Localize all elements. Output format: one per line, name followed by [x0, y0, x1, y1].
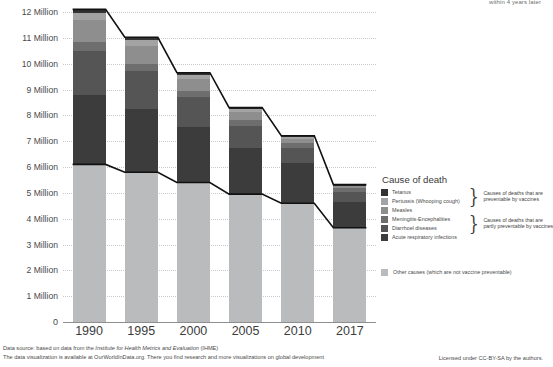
- legend-item-6[interactable]: Acute respiratory infections: [381, 233, 547, 241]
- y-tick-label: 6 Million: [26, 162, 58, 172]
- legend-swatch: [381, 198, 388, 205]
- legend-item-3[interactable]: Measles: [381, 206, 547, 214]
- top-clipped-caption: within 4 years later: [489, 0, 541, 6]
- outline-overlay: [63, 12, 376, 322]
- y-tick-label: 5 Million: [26, 188, 58, 198]
- brace-partly-line1: Causes of deaths that are: [483, 217, 542, 223]
- legend-swatch: [381, 189, 388, 196]
- y-tick-label: 11 Million: [22, 33, 58, 43]
- footer-visualization-line: The data visualization is available at O…: [3, 354, 403, 361]
- brace-preventable: } Causes of deaths that are preventable …: [467, 188, 543, 205]
- legend-item-other-causes: Other causes (which are not vaccine prev…: [381, 269, 512, 276]
- gridline: [63, 322, 376, 323]
- footer: Data source: based on data from the Inst…: [3, 345, 403, 363]
- brace-icon: }: [469, 188, 479, 205]
- legend-label-other-causes: Other causes (which are not vaccine prev…: [393, 269, 512, 276]
- y-tick-label: 8 Million: [26, 110, 58, 120]
- y-tick-label: 2 Million: [26, 265, 58, 275]
- y-tick-label: 3 Million: [26, 240, 58, 250]
- legend-label: Diarrhoel diseases: [392, 225, 437, 232]
- footer-source-institute: Institute for Health Metrics and Evaluat…: [95, 345, 199, 351]
- x-tick-label: 1990: [75, 324, 103, 338]
- legend-label: Tetanus: [392, 189, 411, 196]
- footer-source-suffix: (IHME): [199, 345, 218, 351]
- brace-preventable-text: Causes of deaths that are preventable by…: [483, 190, 542, 203]
- y-tick-label: 12 Million: [22, 7, 58, 17]
- x-tick-label: 2017: [336, 324, 364, 338]
- y-tick-label: 1 Million: [26, 291, 58, 301]
- y-tick-label: 10 Million: [22, 59, 58, 69]
- legend-swatch: [381, 216, 388, 223]
- brace-partly-line2: partly preventable by vaccines: [483, 223, 553, 229]
- license-text: Licensed under CC-BY-SA by the authors.: [439, 355, 543, 361]
- legend-swatch-other-causes: [381, 269, 388, 276]
- plot-area: 01 Million2 Million3 Million4 Million5 M…: [63, 12, 376, 322]
- x-tick-label: 2005: [232, 324, 260, 338]
- legend-swatch: [381, 234, 388, 241]
- x-tick-label: 1995: [127, 324, 155, 338]
- legend-title: Cause of death: [382, 174, 547, 185]
- footer-source-prefix: Data source: based on data from the: [3, 345, 95, 351]
- total-deaths-outline: [73, 9, 367, 184]
- x-tick-label: 2010: [284, 324, 312, 338]
- legend-swatch: [381, 225, 388, 232]
- x-tick-label: 2000: [180, 324, 208, 338]
- y-tick-label: 0: [53, 317, 58, 327]
- y-tick-label: 4 Million: [26, 214, 58, 224]
- legend-label: Acute respiratory infections: [392, 234, 457, 241]
- brace-preventable-line2: preventable by vaccines: [483, 196, 539, 202]
- y-tick-label: 9 Million: [26, 85, 58, 95]
- brace-partly-preventable-text: Causes of deaths that are partly prevent…: [483, 217, 553, 230]
- y-tick-label: 7 Million: [26, 136, 58, 146]
- legend-label: Meningitis-Encephalities: [392, 216, 450, 223]
- brace-icon: }: [469, 215, 479, 232]
- footer-source-line: Data source: based on data from the Inst…: [3, 345, 403, 352]
- brace-preventable-line1: Causes of deaths that are: [483, 190, 542, 196]
- legend-swatch: [381, 207, 388, 214]
- legend-label: Measles: [392, 207, 412, 214]
- legend-label: Pertussis (Whooping cough): [392, 198, 460, 205]
- legend: Cause of death TetanusPertussis (Whoopin…: [381, 174, 547, 242]
- other-causes-outline: [73, 164, 367, 227]
- brace-partly-preventable: } Causes of deaths that are partly preve…: [467, 215, 553, 232]
